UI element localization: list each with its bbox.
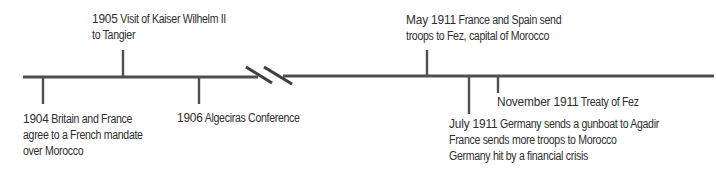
event-year: 1906 <box>177 110 203 125</box>
event-text: Treaty of Fez <box>581 95 639 109</box>
event-text: Britain and France <box>51 112 132 126</box>
event-text-line: troops to Fez, capital of Morocco <box>406 28 561 44</box>
event-text-line: agree to a French mandate <box>23 127 143 143</box>
event-text: Algeciras Conference <box>205 111 300 125</box>
event-label-november-1911: November 1911 Treaty of Fez <box>497 94 639 110</box>
event-year: July 1911 <box>449 116 497 131</box>
event-label-1905: 1905 Visit of Kaiser Wilhelm II to Tangi… <box>92 11 226 43</box>
event-text-line: to Tangier <box>92 27 226 43</box>
event-label-july-1911: July 1911 Germany sends a gunboat to Aga… <box>449 116 659 164</box>
event-text: Germany sends a gunboat to Agadir <box>500 117 659 131</box>
event-text-line: over Morocco <box>23 143 143 159</box>
event-label-1904: 1904 Britain and France agree to a Frenc… <box>23 111 143 159</box>
event-year: May 1911 <box>406 12 456 27</box>
event-text-line: Germany hit by a financial crisis <box>449 148 659 164</box>
event-text-line: France sends more troops to Morocco <box>449 132 659 148</box>
event-text: Visit of Kaiser Wilhelm II <box>120 12 226 26</box>
event-text: France and Spain send <box>459 13 562 27</box>
event-year: 1905 <box>92 11 118 26</box>
event-year: 1904 <box>23 111 49 126</box>
event-label-may-1911: May 1911 France and Spain send troops to… <box>406 12 561 44</box>
event-year: November 1911 <box>497 94 578 109</box>
event-label-1906: 1906 Algeciras Conference <box>177 110 300 126</box>
timeline-diagram: 1905 Visit of Kaiser Wilhelm II to Tangi… <box>0 0 716 173</box>
